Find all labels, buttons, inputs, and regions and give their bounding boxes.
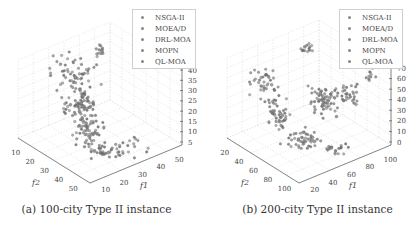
svg-text:20: 20 bbox=[26, 158, 35, 166]
svg-text:30: 30 bbox=[397, 107, 406, 115]
svg-text:f1: f1 bbox=[348, 181, 357, 190]
legend-item-nsga2: NSGA-II bbox=[133, 13, 195, 23]
legend-item-mopn: MOPN bbox=[133, 46, 195, 56]
svg-text:60: 60 bbox=[397, 75, 406, 83]
svg-text:40: 40 bbox=[329, 179, 338, 187]
caption-a: (a) 100-city Type II instance bbox=[0, 203, 201, 215]
svg-text:100: 100 bbox=[278, 185, 291, 193]
legend-a: NSGA-II MOEA/D DRL-MOA MOPN QL-MOA bbox=[132, 9, 196, 69]
legend-item-ql-moa: QL-MOA bbox=[340, 57, 402, 67]
subplot-b: 7060504030201002040608010020406080100f2f… bbox=[209, 0, 418, 233]
svg-text:40: 40 bbox=[156, 163, 165, 171]
legend-item-moead: MOEA/D bbox=[340, 24, 402, 34]
svg-text:20: 20 bbox=[310, 186, 319, 194]
svg-text:30: 30 bbox=[40, 167, 49, 175]
marker-icon bbox=[141, 38, 144, 41]
svg-text:50: 50 bbox=[175, 156, 184, 164]
svg-text:f2: f2 bbox=[31, 178, 40, 187]
legend-item-drl-moa: DRL-MOA bbox=[133, 35, 195, 45]
svg-text:10: 10 bbox=[188, 128, 197, 136]
marker-icon bbox=[141, 60, 144, 63]
axes-b: 7060504030201002040608010020406080100f2f… bbox=[220, 65, 406, 195]
marker-icon bbox=[141, 27, 144, 30]
svg-text:60: 60 bbox=[249, 167, 258, 175]
marker-icon bbox=[348, 38, 351, 41]
svg-text:15: 15 bbox=[188, 118, 197, 126]
legend-item-nsga2: NSGA-II bbox=[340, 13, 402, 23]
marker-icon bbox=[348, 60, 351, 63]
svg-text:20: 20 bbox=[120, 179, 129, 187]
svg-text:10: 10 bbox=[397, 128, 406, 136]
svg-text:20: 20 bbox=[220, 149, 229, 157]
marker-icon bbox=[141, 16, 144, 19]
svg-text:50: 50 bbox=[397, 86, 406, 94]
legend-item-drl-moa: DRL-MOA bbox=[340, 35, 402, 45]
svg-text:100: 100 bbox=[384, 156, 397, 164]
legend-item-ql-moa: QL-MOA bbox=[133, 57, 195, 67]
marker-icon bbox=[348, 49, 351, 52]
legend-item-moead: MOEA/D bbox=[133, 24, 195, 34]
svg-text:20: 20 bbox=[397, 117, 406, 125]
svg-text:50: 50 bbox=[69, 185, 78, 193]
svg-text:40: 40 bbox=[54, 176, 63, 184]
marker-icon bbox=[141, 49, 144, 52]
svg-text:10: 10 bbox=[11, 149, 20, 157]
svg-text:40: 40 bbox=[397, 96, 406, 104]
svg-text:80: 80 bbox=[263, 176, 272, 184]
axes-a: 40353025201510510203040501020304050f2f1 bbox=[11, 67, 197, 195]
svg-text:5: 5 bbox=[188, 139, 192, 147]
svg-text:20: 20 bbox=[188, 108, 197, 116]
svg-text:60: 60 bbox=[347, 171, 356, 179]
legend-item-mopn: MOPN bbox=[340, 46, 402, 56]
svg-text:30: 30 bbox=[188, 87, 197, 95]
svg-text:25: 25 bbox=[188, 97, 197, 105]
svg-text:10: 10 bbox=[101, 186, 110, 194]
subplot-a: 40353025201510510203040501020304050f2f1 … bbox=[0, 0, 209, 233]
svg-text:40: 40 bbox=[235, 158, 244, 166]
svg-text:80: 80 bbox=[365, 163, 374, 171]
svg-text:f2: f2 bbox=[240, 178, 249, 187]
svg-text:35: 35 bbox=[188, 77, 197, 85]
svg-text:30: 30 bbox=[138, 171, 147, 179]
legend-b: NSGA-II MOEA/D DRL-MOA MOPN QL-MOA bbox=[339, 9, 403, 69]
marker-icon bbox=[348, 27, 351, 30]
svg-text:0: 0 bbox=[397, 139, 401, 147]
caption-b: (b) 200-city Type II instance bbox=[213, 203, 418, 215]
marker-icon bbox=[348, 16, 351, 19]
svg-text:f1: f1 bbox=[139, 181, 148, 190]
